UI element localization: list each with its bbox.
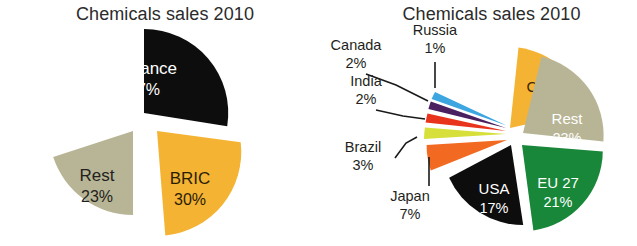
outside-label-brazil-name: Brazil [345, 139, 381, 155]
pie-slice-usa-label: USA [479, 180, 510, 197]
outside-label-canada-value: 2% [346, 55, 367, 71]
outside-label-brazil-value: 3% [353, 157, 374, 173]
pie-slice-advance-value: 47% [128, 81, 160, 98]
outside-label-canada: Canada 2% [331, 37, 383, 71]
outside-label-canada-name: Canada [331, 37, 383, 53]
pie-slice-rest-label: Rest [80, 166, 115, 185]
outside-label-india: India 2% [350, 73, 382, 107]
outside-label-russia-value: 1% [425, 40, 446, 56]
outside-label-brazil: Brazil 3% [345, 139, 381, 173]
leader-line-brazil [395, 137, 417, 158]
pie-chart-right: China 24% Rest 23% EU 27 21% USA 17% [318, 0, 637, 246]
pie-slice-usa-value: 17% [479, 200, 508, 216]
pie-slice-bric-label: BRIC [170, 169, 211, 188]
pie-slice-rest-right-label: Rest [552, 110, 584, 127]
outside-label-russia: Russia 1% [413, 22, 458, 56]
outside-label-india-value: 2% [356, 91, 377, 107]
chemicals-sales-figure: Chemicals sales 2010 Advance 47% BRIC 30… [0, 0, 637, 246]
pie-slice-advance-label: Advance [111, 59, 177, 78]
pie-slice-advance[interactable]: Advance 47% [111, 29, 228, 126]
chart-panel-left: Chemicals sales 2010 Advance 47% BRIC 30… [0, 0, 318, 246]
pie-slice-rest[interactable]: Rest 23% [53, 131, 133, 215]
outside-label-russia-name: Russia [413, 22, 458, 38]
leader-line-india [376, 110, 425, 119]
pie-slice-eu27[interactable]: EU 27 21% [522, 145, 603, 231]
outside-label-india-name: India [350, 73, 382, 89]
pie-slice-bric-value: 30% [174, 191, 206, 208]
outside-label-japan-name: Japan [390, 188, 430, 204]
outside-label-japan-value: 7% [400, 206, 421, 222]
pie-slice-eu27-label: EU 27 [537, 174, 579, 191]
pie-slice-bric[interactable]: BRIC 30% [157, 131, 241, 236]
chart-panel-right: Chemicals sales 2010 China 24% Rest 23% … [318, 0, 637, 246]
outside-label-japan: Japan 7% [390, 188, 430, 222]
pie-slice-rest-right-value: 23% [552, 130, 581, 146]
pie-slice-rest-value: 23% [81, 188, 113, 205]
pie-chart-left: Advance 47% BRIC 30% Rest 23% [0, 0, 318, 246]
pie-slice-eu27-value: 21% [543, 194, 572, 210]
